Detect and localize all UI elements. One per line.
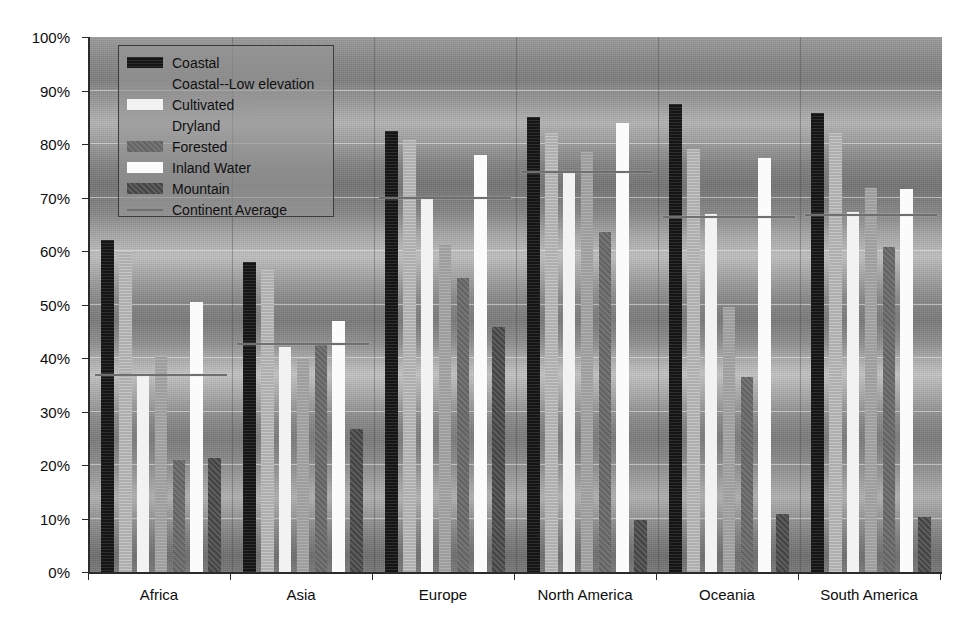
x-tick-mark [798, 572, 799, 580]
continent-average-line-oceania [663, 216, 795, 218]
legend-swatch-cultivated-icon [127, 99, 163, 110]
bar-mountain-asia [350, 429, 362, 572]
x-tick-mark [88, 572, 89, 580]
bar-mountain-africa [208, 458, 220, 572]
bar-inland-water-africa [190, 302, 202, 572]
legend-item: Mountain [127, 178, 325, 199]
bar-mountain-oceania [776, 514, 788, 572]
bar-coastal-low-europe [403, 140, 415, 572]
bar-cultivated-africa [137, 374, 149, 572]
category-separator [658, 37, 659, 572]
bar-dryland-africa [155, 356, 167, 572]
bar-mountain-south-america [918, 517, 930, 572]
y-tick-label: 100% [32, 29, 70, 46]
category-separator [374, 37, 375, 572]
bar-coastal-africa [101, 240, 113, 572]
y-tick-label: 10% [40, 510, 70, 527]
y-tick-label: 60% [40, 243, 70, 260]
y-tick-label: 80% [40, 136, 70, 153]
legend-label: Inland Water [172, 161, 251, 175]
bar-coastal-south-america [811, 113, 823, 572]
x-tick-mark [514, 572, 515, 580]
x-tick-mark [656, 572, 657, 580]
bar-coastal-oceania [669, 104, 681, 572]
bar-inland-water-south-america [900, 189, 912, 572]
bar-cultivated-north-america [563, 173, 575, 572]
legend-label: Mountain [172, 182, 230, 196]
bar-inland-water-europe [474, 155, 486, 572]
x-tick-mark [230, 572, 231, 580]
bar-dryland-north-america [581, 152, 593, 572]
bar-cultivated-south-america [847, 212, 859, 572]
legend-item: Forested [127, 136, 325, 157]
bar-cultivated-europe [421, 198, 433, 573]
legend-label: Coastal [172, 56, 219, 70]
legend-label: Continent Average [172, 203, 287, 217]
y-tick-label: 20% [40, 457, 70, 474]
x-tick-label-oceania: Oceania [699, 586, 755, 603]
bar-inland-water-north-america [616, 123, 628, 572]
continent-average-line-south-america [805, 214, 937, 216]
x-axis: AfricaAsiaEuropeNorth AmericaOceaniaSout… [88, 582, 940, 612]
continent-average-line-asia [237, 343, 369, 345]
y-tick-label: 50% [40, 296, 70, 313]
legend-item: Coastal [127, 52, 325, 73]
legend-label: Dryland [172, 119, 220, 133]
legend: CoastalCoastal--Low elevationCultivatedD… [118, 45, 334, 217]
grouped-bar-chart: 0%10%20%30%40%50%60%70%80%90%100% Africa… [0, 0, 968, 633]
legend-label: Coastal--Low elevation [172, 77, 314, 91]
legend-swatch-coastal-icon [127, 57, 163, 68]
legend-item: Dryland [127, 115, 325, 136]
bar-inland-water-oceania [758, 158, 770, 572]
bar-forested-north-america [599, 232, 611, 572]
category-separator [800, 37, 801, 572]
y-tick-label: 90% [40, 82, 70, 99]
bar-coastal-low-south-america [829, 133, 841, 572]
x-tick-label-north-america: North America [537, 586, 632, 603]
bar-dryland-south-america [865, 188, 877, 572]
legend-item: Continent Average [127, 199, 325, 220]
x-tick-label-asia: Asia [286, 586, 315, 603]
y-tick-label: 40% [40, 350, 70, 367]
continent-average-line-africa [95, 374, 227, 376]
bar-dryland-europe [439, 244, 451, 572]
y-axis: 0%10%20%30%40%50%60%70%80%90%100% [0, 0, 84, 610]
bar-coastal-low-asia [261, 270, 273, 572]
bar-coastal-low-oceania [687, 149, 699, 572]
x-tick-label-europe: Europe [419, 586, 467, 603]
x-tick-mark [940, 572, 941, 580]
x-tick-label-south-america: South America [820, 586, 918, 603]
bar-cultivated-oceania [705, 214, 717, 572]
legend-swatch-line-icon [127, 204, 163, 215]
bar-forested-oceania [741, 377, 753, 572]
bar-coastal-low-africa [119, 251, 131, 572]
bar-coastal-low-north-america [545, 133, 557, 572]
legend-item: Cultivated [127, 94, 325, 115]
bar-forested-south-america [883, 247, 895, 572]
bar-mountain-europe [492, 327, 504, 572]
continent-average-line-europe [379, 197, 511, 199]
bar-forested-europe [457, 278, 469, 572]
bar-forested-africa [173, 460, 185, 572]
y-tick-label: 30% [40, 403, 70, 420]
legend-swatch-inland-water-icon [127, 162, 163, 173]
legend-swatch-spacer-icon [127, 78, 163, 89]
continent-average-line-north-america [521, 171, 653, 173]
bar-coastal-north-america [527, 117, 539, 572]
bar-mountain-north-america [634, 520, 646, 572]
bar-dryland-asia [297, 358, 309, 572]
legend-item: Inland Water [127, 157, 325, 178]
category-separator [516, 37, 517, 572]
bar-coastal-asia [243, 262, 255, 572]
legend-item: Coastal--Low elevation [127, 73, 325, 94]
y-tick-label: 0% [48, 564, 70, 581]
bar-cultivated-asia [279, 347, 291, 572]
legend-swatch-forested-icon [127, 141, 163, 152]
legend-swatch-spacer-icon [127, 120, 163, 131]
y-tick-label: 70% [40, 189, 70, 206]
x-tick-mark [372, 572, 373, 580]
legend-label: Forested [172, 140, 227, 154]
legend-swatch-mountain-icon [127, 183, 163, 194]
legend-label: Cultivated [172, 98, 234, 112]
x-tick-label-africa: Africa [140, 586, 178, 603]
